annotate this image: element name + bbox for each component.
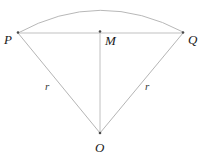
point-marker-p — [17, 31, 20, 34]
point-marker-q — [182, 31, 185, 34]
arc-pq — [18, 10, 183, 33]
vertex-label-o: O — [95, 141, 104, 154]
point-marker-m — [99, 30, 102, 33]
radius-qo-line — [100, 33, 183, 133]
sector-diagram-figure: P M Q O r r — [0, 0, 210, 168]
radius-po-line — [18, 33, 100, 133]
radius-label-right: r — [145, 81, 149, 92]
vertex-label-p: P — [4, 33, 12, 46]
sector-diagram-canvas — [0, 0, 210, 168]
vertex-label-m: M — [105, 34, 116, 47]
radius-label-left: r — [45, 81, 49, 92]
vertex-label-q: Q — [188, 33, 197, 46]
point-marker-o — [99, 132, 102, 135]
